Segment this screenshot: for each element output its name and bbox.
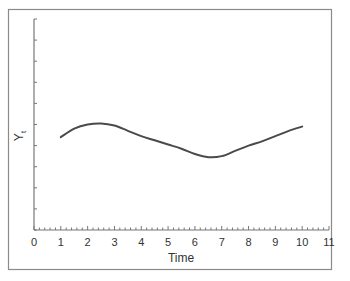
x-tick-label: 8	[245, 236, 251, 248]
x-tick-label: 3	[111, 236, 117, 248]
x-tick-label: 0	[31, 236, 37, 248]
x-tick-label: 6	[192, 236, 198, 248]
x-tick-label: 2	[85, 236, 91, 248]
x-tick-label: 7	[219, 236, 225, 248]
line-chart: 01234567891011 Time Yt	[0, 0, 350, 281]
x-tick-label: 4	[138, 236, 144, 248]
x-tick-label: 1	[58, 236, 64, 248]
x-tick-label: 10	[296, 236, 308, 248]
x-tick-label: 5	[165, 236, 171, 248]
x-axis-label: Time	[168, 251, 195, 265]
x-tick-label: 9	[272, 236, 278, 248]
y-axis-label-main: Y	[12, 133, 26, 141]
x-tick-label: 11	[323, 236, 334, 248]
